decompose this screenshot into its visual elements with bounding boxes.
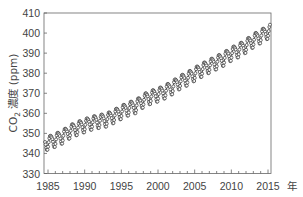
data-point: [47, 145, 50, 148]
data-point: [134, 112, 137, 115]
data-point: [127, 111, 130, 114]
co2-concentration-chart: 330340350360370380390400410 198519901995…: [0, 0, 303, 197]
data-point: [127, 114, 130, 117]
y-axis: 330340350360370380390400410: [22, 7, 47, 180]
data-point: [69, 129, 72, 132]
data-point: [157, 93, 160, 96]
data-point: [96, 121, 99, 124]
data-point: [193, 76, 196, 79]
data-point: [207, 71, 210, 74]
data-point: [266, 37, 269, 40]
data-point: [245, 48, 248, 51]
data-point: [149, 103, 152, 106]
data-series: [44, 23, 272, 151]
y-tick-label: 390: [22, 47, 40, 59]
data-point: [69, 134, 72, 137]
data-point: [113, 119, 116, 122]
data-point: [179, 80, 182, 83]
data-point: [215, 65, 218, 68]
data-point: [143, 98, 146, 101]
data-point: [200, 75, 203, 78]
data-point: [113, 114, 116, 117]
data-point: [98, 124, 101, 127]
data-point: [149, 99, 152, 102]
data-point: [253, 38, 256, 41]
data-point: [252, 43, 255, 46]
data-point: [77, 126, 80, 129]
data-point: [260, 34, 263, 37]
y-tick-label: 340: [22, 147, 40, 159]
x-axis: 1985199019952000200520102015: [36, 170, 280, 193]
data-point: [171, 90, 174, 93]
data-point: [120, 115, 123, 118]
x-axis-unit-label: 年: [287, 180, 297, 192]
data-point: [132, 106, 135, 109]
data-point: [105, 125, 108, 128]
data-point: [75, 134, 78, 137]
data-point: [187, 76, 190, 79]
data-point: [135, 104, 138, 107]
x-tick-label: 2005: [183, 180, 207, 192]
data-point: [84, 123, 87, 126]
data-point: [201, 68, 204, 71]
data-point: [178, 88, 181, 91]
data-point: [259, 39, 262, 42]
data-point: [62, 134, 65, 137]
data-point: [61, 139, 64, 142]
data-point: [53, 145, 56, 148]
data-point: [231, 52, 234, 55]
data-point: [163, 97, 166, 100]
data-point: [119, 118, 122, 121]
data-point: [267, 34, 270, 37]
data-point: [47, 141, 50, 144]
data-point: [46, 148, 49, 151]
y-tick-label: 410: [22, 7, 40, 19]
x-tick-label: 2000: [146, 180, 170, 192]
data-point: [171, 93, 174, 96]
data-point: [259, 42, 262, 45]
data-point: [251, 46, 254, 49]
data-point: [97, 126, 100, 129]
y-tick-label: 350: [22, 127, 40, 139]
data-point: [186, 81, 189, 84]
x-tick-label: 1995: [110, 180, 134, 192]
data-point: [54, 142, 57, 145]
data-point: [156, 100, 159, 103]
data-point: [172, 85, 175, 88]
x-tick-label: 2010: [220, 180, 244, 192]
data-point: [193, 80, 196, 83]
data-point: [76, 131, 79, 134]
data-point: [268, 23, 271, 26]
data-point: [208, 68, 211, 71]
data-point: [150, 95, 153, 98]
data-point: [106, 118, 109, 121]
data-point: [112, 122, 115, 125]
data-point: [157, 97, 160, 100]
data-point: [61, 142, 64, 145]
data-point: [223, 61, 226, 64]
data-point: [185, 84, 188, 87]
data-point: [91, 125, 94, 128]
data-point: [83, 131, 86, 134]
data-point: [215, 68, 218, 71]
data-point: [141, 106, 144, 109]
x-tick-label: 2015: [256, 180, 280, 192]
data-point: [105, 122, 108, 125]
data-point: [128, 106, 131, 109]
data-point: [229, 59, 232, 62]
data-point: [237, 56, 240, 59]
data-point: [99, 119, 102, 122]
data-point: [103, 120, 106, 123]
data-point: [164, 94, 167, 97]
data-point: [91, 121, 94, 124]
y-tick-label: 370: [22, 87, 40, 99]
data-point: [194, 72, 197, 75]
data-point: [135, 109, 138, 112]
y-tick-label: 360: [22, 107, 40, 119]
data-point: [244, 51, 247, 54]
x-tick-label: 1990: [73, 180, 97, 192]
data-point: [121, 110, 124, 113]
data-point: [238, 48, 241, 51]
data-point: [209, 64, 212, 67]
data-point: [223, 56, 226, 59]
